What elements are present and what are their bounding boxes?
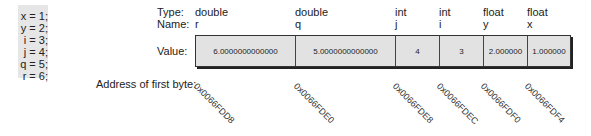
type-y: float [483, 6, 504, 18]
cell-y: 2.000000 [484, 36, 528, 66]
type-x: float [527, 6, 548, 18]
name-j: j [395, 18, 397, 30]
name-r: r [195, 18, 199, 30]
code-line: i = 3; [24, 34, 48, 46]
name-i: i [439, 18, 441, 30]
code-line: r = 6; [23, 70, 48, 82]
cell-j: 4 [396, 36, 440, 66]
name-label: Name: [157, 18, 189, 30]
code-panel: x = 1; y = 2; i = 3; j = 4; q = 5; r = 6… [18, 5, 48, 78]
address-y: 0x0066FDF0 [479, 81, 523, 125]
address-label: Address of first byte: [96, 78, 196, 90]
code-line: q = 5; [20, 58, 48, 70]
address-i: 0x0066FDEC [435, 81, 480, 126]
code-line: j = 4; [24, 46, 48, 58]
name-y: y [483, 18, 489, 30]
value-label: Value: [157, 45, 187, 57]
cell-r: 6.0000000000000 [196, 36, 296, 66]
type-r: double [195, 6, 228, 18]
address-r: 0x0066FDD8 [192, 81, 237, 126]
type-j: int [395, 6, 407, 18]
address-q: 0x0066FDE0 [292, 81, 336, 125]
address-x: 0x0066FDF4 [523, 81, 567, 125]
address-j: 0x0066FDE8 [391, 81, 435, 125]
cell-x: 1.000000 [528, 36, 570, 66]
type-label: Type: [157, 6, 184, 18]
cell-q: 5.0000000000000 [296, 36, 396, 66]
name-q: q [295, 18, 301, 30]
cell-i: 3 [440, 36, 484, 66]
name-x: x [527, 18, 533, 30]
memory-block: 6.0000000000000 5.0000000000000 4 3 2.00… [195, 35, 571, 67]
type-q: double [295, 6, 328, 18]
code-line: x = 1; [21, 10, 48, 22]
code-line: y = 2; [21, 22, 48, 34]
type-i: int [439, 6, 451, 18]
